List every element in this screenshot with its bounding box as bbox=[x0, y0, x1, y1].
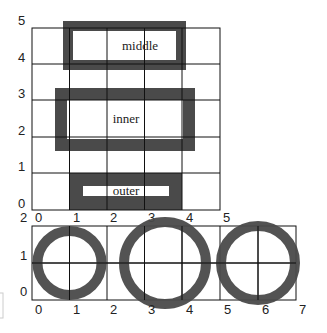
top-panel: middle inner outer 5 4 3 2 1 0 bbox=[18, 13, 220, 211]
bottom-y-tick-2: 2 bbox=[20, 210, 27, 225]
x-tick-0: 0 bbox=[35, 302, 42, 317]
x-tick-6: 6 bbox=[262, 302, 269, 317]
y-tick-4: 4 bbox=[18, 50, 25, 65]
y-tick-3: 3 bbox=[18, 86, 25, 101]
diagram-canvas: middle inner outer 5 4 3 2 1 0 2 0 1 2 3… bbox=[0, 0, 327, 333]
y-tick-2: 2 bbox=[18, 123, 25, 138]
x-tick-5: 5 bbox=[224, 302, 231, 317]
x-tick-3: 3 bbox=[148, 302, 155, 317]
x-tick-7: 7 bbox=[299, 302, 306, 317]
x-tick-4: 4 bbox=[186, 302, 193, 317]
y-tick-1: 1 bbox=[18, 159, 25, 174]
y-tick-0: 0 bbox=[18, 196, 25, 211]
edge-frame-fragment bbox=[0, 293, 3, 318]
inner-label: inner bbox=[113, 111, 140, 126]
bottom-y-tick-1: 1 bbox=[20, 248, 27, 263]
middle-label: middle bbox=[122, 38, 158, 53]
top-x-tick-0: 0 bbox=[35, 210, 42, 225]
top-x-tick-2: 2 bbox=[110, 210, 117, 225]
top-x-tick-1: 1 bbox=[73, 210, 80, 225]
top-x-tick-5: 5 bbox=[223, 210, 230, 225]
bottom-grid-overlay bbox=[32, 226, 296, 300]
y-tick-5: 5 bbox=[18, 13, 25, 28]
x-tick-1: 1 bbox=[73, 302, 80, 317]
bottom-y-tick-0: 0 bbox=[20, 284, 27, 299]
bottom-panel: 2 0 1 2 3 4 5 1 0 bbox=[0, 210, 306, 318]
x-tick-2: 2 bbox=[110, 302, 117, 317]
outer-label: outer bbox=[113, 183, 140, 198]
